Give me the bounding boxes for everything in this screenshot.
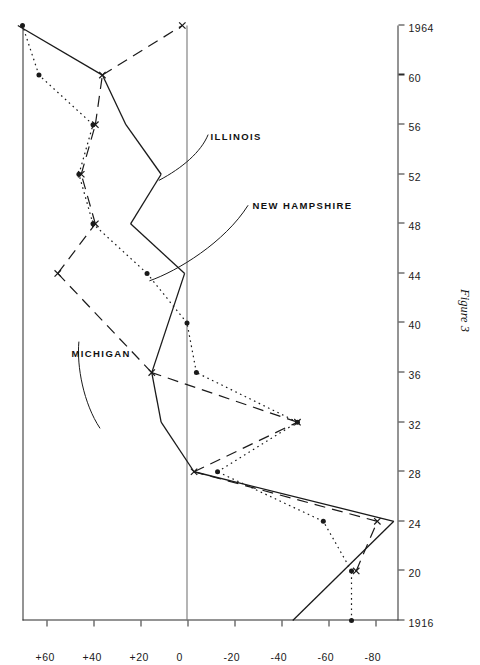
y-axis-tick — [281, 620, 282, 626]
y-axis-tick-label: -20 — [223, 650, 240, 662]
x-axis-tick-label: 48 — [408, 219, 421, 231]
x-axis-tick — [398, 569, 404, 570]
x-axis-tick — [398, 619, 404, 620]
y-axis-tick-label: +60 — [35, 650, 54, 662]
x-axis-tick-label: 44 — [408, 269, 421, 281]
x-axis-tick — [398, 74, 404, 75]
y-axis-tick — [187, 620, 188, 626]
x-axis-tick — [398, 24, 404, 25]
y-axis-tick — [234, 620, 235, 626]
y-axis-tick — [93, 620, 94, 626]
series-label-new-hampshire: NEW HAMPSHIRE — [252, 199, 352, 210]
x-axis-tick-label: 52 — [408, 170, 421, 182]
y-axis-tick-label: +20 — [129, 650, 148, 662]
y-axis-tick-label: 0 — [176, 650, 182, 662]
x-axis-tick-label: 60 — [408, 71, 421, 83]
leader-line-new-hampshire — [149, 205, 248, 281]
figure-caption: Figure 3 — [457, 289, 472, 332]
y-axis-tick — [46, 620, 47, 626]
x-axis-tick — [398, 123, 404, 124]
x-axis-tick — [398, 371, 404, 372]
x-axis-tick-label: 20 — [408, 566, 421, 578]
x-axis-tick — [398, 222, 404, 223]
rotated-plot-container: 191620242832364044485256601964 +60+40+20… — [0, 0, 480, 665]
y-axis-tick — [328, 620, 329, 626]
figure-canvas: 191620242832364044485256601964 +60+40+20… — [0, 0, 480, 665]
annotation-leader-lines — [22, 25, 398, 620]
x-axis-tick-label: 24 — [408, 517, 421, 529]
x-axis-tick — [398, 173, 404, 174]
x-axis-tick-label: 56 — [408, 120, 421, 132]
x-axis-tick-label: 40 — [408, 319, 421, 331]
x-axis-tick — [398, 421, 404, 422]
x-axis-tick — [398, 272, 404, 273]
x-axis-tick-label: 1916 — [408, 616, 433, 628]
series-label-michigan: MICHIGAN — [71, 347, 130, 358]
y-axis-tick — [140, 620, 141, 626]
x-axis-tick — [398, 520, 404, 521]
y-axis-tick — [375, 620, 376, 626]
series-label-illinois: ILLINOIS — [210, 130, 261, 141]
y-axis-tick-label: +40 — [82, 650, 101, 662]
leader-line-illinois — [158, 134, 207, 180]
x-axis-tick-label: 28 — [408, 467, 421, 479]
y-axis-tick-label: -80 — [364, 650, 381, 662]
y-axis-tick-label: -60 — [317, 650, 334, 662]
x-axis-tick-label: 36 — [408, 368, 421, 380]
x-axis-tick-label: 32 — [408, 418, 421, 430]
plot-area: 191620242832364044485256601964 +60+40+20… — [22, 25, 398, 620]
x-axis-tick — [398, 321, 404, 322]
y-axis-tick-label: -40 — [270, 650, 287, 662]
x-axis-tick-label: 1964 — [408, 21, 433, 33]
x-axis-tick — [398, 470, 404, 471]
